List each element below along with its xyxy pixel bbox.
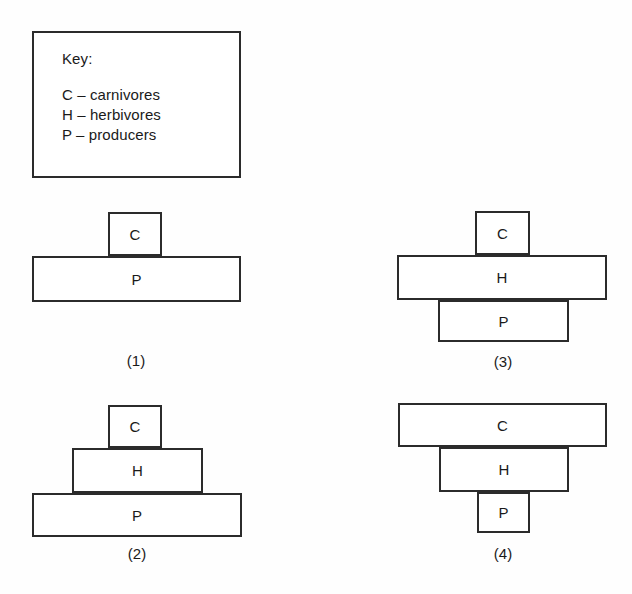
tier-label: P (132, 508, 142, 523)
pyramid-2-tier-producers: P (32, 493, 242, 537)
key-entry-carnivores: C – carnivores (62, 87, 160, 102)
pyramid-3-tier-producers: P (438, 300, 569, 342)
pyramid-1-tier-producers: P (32, 256, 241, 302)
pyramid-3-tier-herbivores: H (397, 255, 607, 300)
pyramid-2-caption: (2) (87, 546, 187, 561)
key-title: Key: (62, 51, 92, 66)
tier-label: P (131, 272, 141, 287)
pyramid-4-tier-producers: P (477, 492, 530, 533)
pyramid-4-tier-carnivores: C (398, 403, 607, 447)
pyramid-3-tier-carnivores: C (475, 211, 530, 255)
tier-label: H (132, 463, 143, 478)
tier-label: C (129, 227, 140, 242)
pyramid-3-caption: (3) (453, 354, 553, 369)
tier-label: C (497, 226, 508, 241)
tier-label: P (498, 314, 508, 329)
pyramid-4-caption: (4) (453, 546, 553, 561)
key-entry-producers: P – producers (62, 127, 156, 142)
diagram-page: Key: C – carnivores H – herbivores P – p… (0, 0, 632, 594)
key-entry-herbivores: H – herbivores (62, 107, 161, 122)
pyramid-1-caption: (1) (86, 353, 186, 368)
tier-label: P (498, 505, 508, 520)
tier-label: C (497, 418, 508, 433)
pyramid-2-tier-herbivores: H (72, 448, 203, 493)
pyramid-1-tier-carnivores: C (108, 212, 162, 256)
pyramid-2-tier-carnivores: C (108, 405, 162, 448)
tier-label: H (498, 462, 509, 477)
pyramid-4-tier-herbivores: H (439, 447, 569, 492)
key-legend-box: Key: C – carnivores H – herbivores P – p… (32, 31, 241, 178)
tier-label: C (129, 419, 140, 434)
tier-label: H (496, 270, 507, 285)
